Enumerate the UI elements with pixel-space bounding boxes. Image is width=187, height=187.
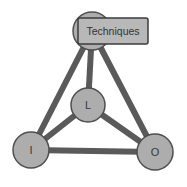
node-label-l: L bbox=[85, 99, 91, 111]
edge-techniques-o bbox=[92, 31, 155, 152]
node-label-o: O bbox=[151, 146, 160, 158]
node-label-i: I bbox=[29, 144, 32, 156]
diagram-canvas: L I O Techniques bbox=[0, 0, 187, 187]
techniques-box-label: Techniques bbox=[86, 25, 139, 37]
techniques-label-box[interactable]: Techniques bbox=[78, 18, 148, 44]
graph-svg: L I O Techniques bbox=[0, 0, 187, 187]
